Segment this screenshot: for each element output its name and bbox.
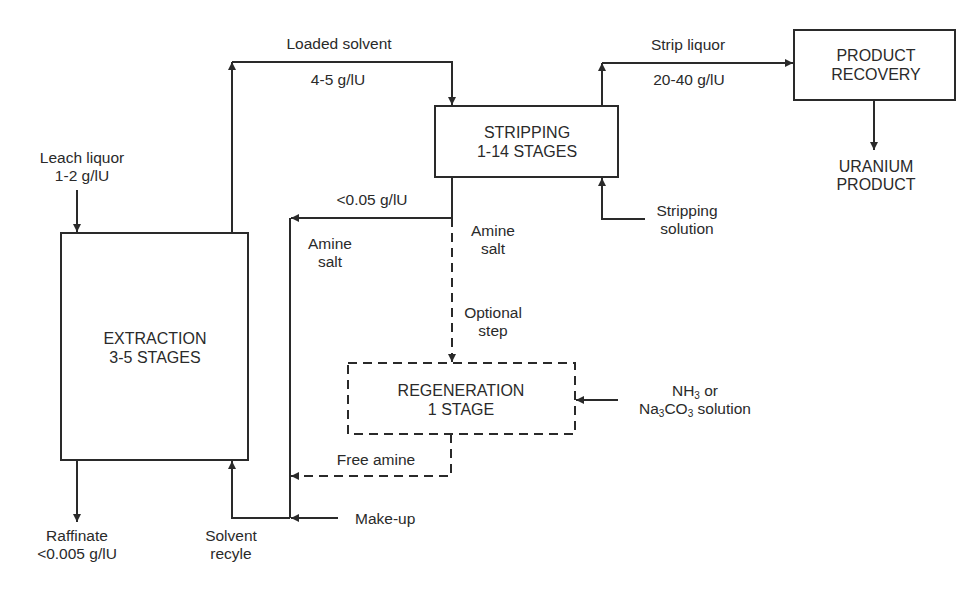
extraction-title-line1: EXTRACTION <box>103 329 206 348</box>
product-recovery-title-line1: PRODUCT <box>831 46 921 65</box>
co-text: CO <box>664 400 687 417</box>
stripping-solution-line2: solution <box>656 220 717 238</box>
barren-solvent-conc: <0.05 g/lU <box>336 191 407 209</box>
solvent-recycle-line2: recyle <box>205 545 257 563</box>
raffinate-label: Raffinate <0.005 g/lU <box>37 527 117 563</box>
amine-salt-left-label: Amine salt <box>308 235 352 271</box>
leach-liquor-name: Leach liquor <box>40 149 124 167</box>
leach-liquor-conc: 1-2 g/lU <box>40 167 124 185</box>
raffinate-name: Raffinate <box>37 527 117 545</box>
loaded-solvent-label: Loaded solvent <box>286 35 391 53</box>
free-amine-label: Free amine <box>337 451 415 469</box>
amine-salt-right-line2: salt <box>471 240 515 258</box>
solvent-recycle-line1: Solvent <box>205 527 257 545</box>
strip-liquor-label: Strip liquor <box>651 36 725 54</box>
regeneration-title-line2: 1 STAGE <box>398 400 525 419</box>
stripping-solution-label: Stripping solution <box>656 202 717 238</box>
regen-reagent-line1: NH3 or <box>639 382 751 400</box>
product-recovery-box-title: PRODUCT RECOVERY <box>831 46 921 84</box>
raffinate-conc: <0.005 g/lU <box>37 545 117 563</box>
uranium-product-line2: PRODUCT <box>836 176 915 194</box>
stripping-solution-line1: Stripping <box>656 202 717 220</box>
stripping-title-line1: STRIPPING <box>477 123 577 142</box>
extraction-title-line2: 3-5 STAGES <box>103 348 206 367</box>
or-text: or <box>700 382 718 399</box>
optional-step-label: Optional step <box>464 304 522 340</box>
solution-text: solution <box>693 400 751 417</box>
stripping-title-line2: 1-14 STAGES <box>477 142 577 161</box>
regeneration-box-title: REGENERATION 1 STAGE <box>398 381 525 419</box>
amine-salt-left-line2: salt <box>308 253 352 271</box>
extraction-box-title: EXTRACTION 3-5 STAGES <box>103 329 206 367</box>
amine-salt-left-line1: Amine <box>308 235 352 253</box>
product-recovery-title-line2: RECOVERY <box>831 65 921 84</box>
strip-liquor-conc: 20-40 g/lU <box>653 71 725 89</box>
loaded-solvent-conc: 4-5 g/lU <box>311 71 365 89</box>
uranium-product-label: URANIUM PRODUCT <box>836 158 915 194</box>
regeneration-title-line1: REGENERATION <box>398 381 525 400</box>
stripping-box-title: STRIPPING 1-14 STAGES <box>477 123 577 161</box>
regen-reagent-line2: Na3CO3 solution <box>639 400 751 418</box>
amine-salt-right-line1: Amine <box>471 222 515 240</box>
amine-salt-right-label: Amine salt <box>471 222 515 258</box>
solvent-recycle-arrow <box>232 461 290 518</box>
make-up-label: Make-up <box>355 510 415 528</box>
solvent-recycle-label: Solvent recyle <box>205 527 257 563</box>
leach-liquor-label: Leach liquor 1-2 g/lU <box>40 149 124 185</box>
regen-reagent-label: NH3 or Na3CO3 solution <box>639 382 751 418</box>
optional-step-line2: step <box>464 322 522 340</box>
na-text: Na <box>639 400 659 417</box>
nh-text: NH <box>672 382 694 399</box>
flow-diagram-canvas <box>0 0 980 593</box>
stripping-solution-arrow <box>602 178 645 219</box>
optional-step-line1: Optional <box>464 304 522 322</box>
uranium-product-line1: URANIUM <box>836 158 915 176</box>
